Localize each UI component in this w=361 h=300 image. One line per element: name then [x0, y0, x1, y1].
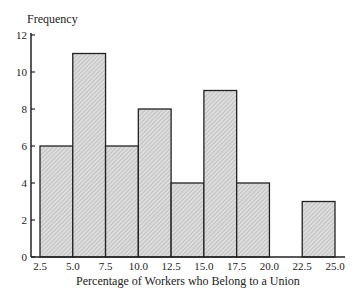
y-tick-label: 0	[22, 251, 28, 263]
x-tick-label: 2.5	[33, 260, 47, 272]
x-axis-ticks: 2.55.07.510.012.515.017.520.022.525.0	[33, 260, 345, 272]
histogram-bars	[40, 54, 335, 258]
x-tick-label: 25.0	[325, 260, 345, 272]
histogram-chart: 024681012 2.55.07.510.012.515.017.520.02…	[0, 0, 361, 300]
x-tick-label: 15.0	[194, 260, 214, 272]
x-tick-label: 12.5	[161, 260, 181, 272]
histogram-bar	[204, 91, 237, 258]
x-axis-title: Percentage of Workers who Belong to a Un…	[76, 274, 300, 288]
x-tick-label: 22.5	[293, 260, 313, 272]
y-tick-label: 8	[22, 103, 28, 115]
histogram-bar	[40, 146, 73, 257]
y-tick-label: 6	[22, 140, 28, 152]
x-tick-label: 20.0	[260, 260, 280, 272]
y-tick-label: 2	[22, 214, 28, 226]
x-tick-label: 7.5	[99, 260, 113, 272]
y-tick-label: 12	[16, 29, 27, 41]
histogram-bar	[237, 183, 270, 257]
y-tick-label: 4	[22, 177, 28, 189]
x-tick-label: 17.5	[227, 260, 247, 272]
histogram-bar	[106, 146, 139, 257]
histogram-bar	[171, 183, 204, 257]
y-axis-title: Frequency	[27, 12, 78, 26]
histogram-bar	[138, 109, 171, 257]
histogram-bar	[302, 202, 335, 258]
x-tick-label: 10.0	[129, 260, 149, 272]
y-axis-ticks: 024681012	[16, 29, 35, 263]
histogram-bar	[73, 54, 106, 258]
x-tick-label: 5.0	[66, 260, 80, 272]
y-tick-label: 10	[16, 66, 28, 78]
